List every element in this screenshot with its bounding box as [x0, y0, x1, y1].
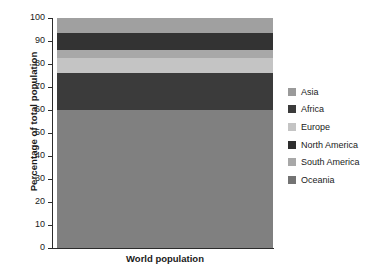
legend-swatch-icon [288, 88, 296, 96]
y-axis-tick-label: 50 [35, 127, 45, 138]
y-axis-tick-mark [48, 87, 52, 88]
y-axis-tick-label: 100 [30, 12, 45, 23]
bar-segment-africa [57, 73, 273, 110]
legend-item-north-america[interactable]: North America [288, 136, 378, 154]
bar-segment-europe [57, 58, 273, 73]
y-axis-tick-mark [48, 202, 52, 203]
y-axis-tick-mark [48, 225, 52, 226]
y-axis-tick-mark [48, 18, 52, 19]
bar-segment-oceania [57, 18, 273, 33]
y-axis-tick-mark [48, 133, 52, 134]
y-axis-tick-label: 40 [35, 150, 45, 161]
y-axis-tick-label: 20 [35, 196, 45, 207]
plot-area [57, 18, 273, 248]
y-axis-tick-label: 70 [35, 81, 45, 92]
y-axis-tick-label: 60 [35, 104, 45, 115]
legend-item-label: Oceania [301, 175, 335, 185]
legend-item-africa[interactable]: Africa [288, 101, 378, 119]
bar-segment-asia [57, 110, 273, 248]
y-axis-tick-mark [48, 179, 52, 180]
legend-swatch-icon [288, 141, 296, 149]
x-axis-line [52, 248, 274, 249]
y-axis-tick-label: 90 [35, 35, 45, 46]
legend-swatch-icon [288, 176, 296, 184]
legend-item-south-america[interactable]: South America [288, 153, 378, 171]
y-axis-line [52, 18, 53, 248]
y-axis-tick-mark [48, 41, 52, 42]
x-axis-category-label: World population [57, 253, 273, 264]
legend-item-label: Asia [301, 87, 319, 97]
y-axis-tick-label: 10 [35, 219, 45, 230]
y-axis-tick-mark [48, 110, 52, 111]
y-axis-tick-label: 0 [40, 242, 45, 253]
legend-item-label: North America [301, 140, 358, 150]
y-axis-tick-mark [48, 156, 52, 157]
stacked-bar-chart: Percentage of total population 100908070… [0, 0, 378, 275]
bar-segment-north-america [57, 50, 273, 58]
legend-swatch-icon [288, 123, 296, 131]
legend-item-label: Africa [301, 104, 324, 114]
legend-item-oceania[interactable]: Oceania [288, 171, 378, 189]
chart-legend: AsiaAfricaEuropeNorth AmericaSouth Ameri… [288, 83, 378, 189]
y-axis-tick-mark [48, 64, 52, 65]
legend-item-label: Europe [301, 122, 330, 132]
bar-world-population [57, 18, 273, 248]
legend-item-asia[interactable]: Asia [288, 83, 378, 101]
legend-item-label: South America [301, 157, 360, 167]
legend-swatch-icon [288, 158, 296, 166]
y-axis-tick-label: 80 [35, 58, 45, 69]
bar-segment-south-america [57, 33, 273, 50]
legend-swatch-icon [288, 105, 296, 113]
legend-item-europe[interactable]: Europe [288, 118, 378, 136]
y-axis-tick-label: 30 [35, 173, 45, 184]
